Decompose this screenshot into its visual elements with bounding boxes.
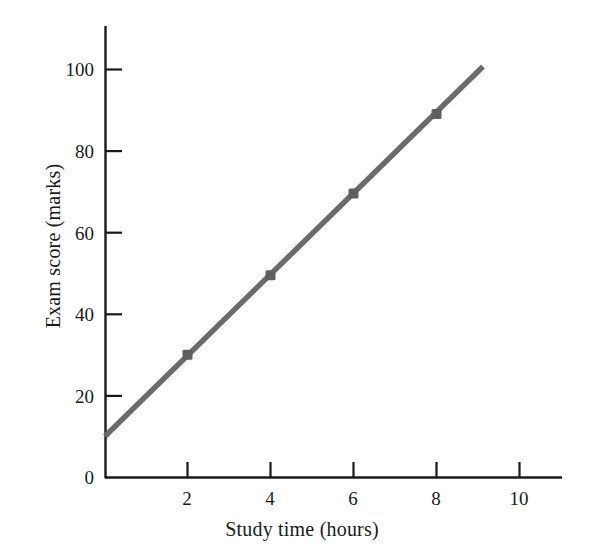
x-tick-label-10: 10 bbox=[510, 489, 529, 508]
x-tick-label-2: 2 bbox=[182, 489, 192, 508]
data-point-marker bbox=[432, 109, 442, 119]
data-trend-line bbox=[105, 67, 483, 437]
data-point-marker bbox=[349, 189, 359, 199]
x-tick-label-4: 4 bbox=[265, 489, 275, 508]
data-point-marker bbox=[266, 270, 276, 280]
x-tick-label-8: 8 bbox=[431, 489, 441, 508]
x-axis-title: Study time (hours) bbox=[0, 518, 604, 541]
x-axis-ticks bbox=[188, 462, 520, 477]
y-axis-title: Exam score (marks) bbox=[38, 26, 68, 466]
chart-figure: 100 80 60 40 20 0 2 4 6 8 10 Study time … bbox=[0, 0, 604, 557]
x-tick-label-6: 6 bbox=[348, 489, 358, 508]
data-point-marker bbox=[183, 350, 193, 360]
y-axis-ticks bbox=[106, 70, 122, 396]
y-tick-label-0: 0 bbox=[38, 468, 94, 487]
